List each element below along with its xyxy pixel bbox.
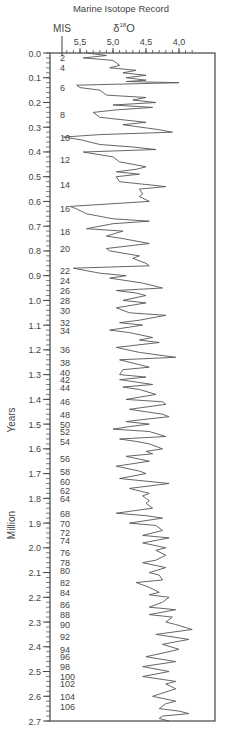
svg-text:Million: Million — [6, 511, 17, 539]
svg-text:1.2: 1.2 — [28, 345, 41, 355]
y-axis-label: Years Million — [6, 407, 17, 539]
svg-text:1.3: 1.3 — [28, 370, 41, 380]
svg-text:98: 98 — [60, 662, 70, 672]
svg-text:52: 52 — [60, 427, 70, 437]
svg-text:92: 92 — [60, 632, 70, 642]
svg-text:0.7: 0.7 — [28, 222, 41, 232]
svg-text:58: 58 — [60, 467, 70, 477]
svg-text:1.0: 1.0 — [28, 296, 41, 306]
svg-text:90: 90 — [60, 620, 70, 630]
svg-text:96: 96 — [60, 652, 70, 662]
svg-text:64: 64 — [60, 494, 70, 504]
svg-text:2.1: 2.1 — [28, 568, 41, 578]
svg-text:30: 30 — [60, 306, 70, 316]
svg-text:2.3: 2.3 — [28, 618, 41, 628]
svg-text:0.8: 0.8 — [28, 246, 41, 256]
svg-text:4,5: 4,5 — [140, 37, 153, 47]
svg-text:4: 4 — [60, 63, 65, 73]
svg-text:5,0: 5,0 — [107, 37, 120, 47]
svg-text:2.5: 2.5 — [28, 667, 41, 677]
svg-text:46: 46 — [60, 397, 70, 407]
mis-label: MIS — [53, 23, 71, 34]
svg-text:0.5: 0.5 — [28, 172, 41, 182]
svg-text:56: 56 — [60, 454, 70, 464]
svg-text:0.0: 0.0 — [28, 49, 41, 59]
svg-text:0.9: 0.9 — [28, 271, 41, 281]
svg-text:14: 14 — [60, 180, 70, 190]
svg-text:2.0: 2.0 — [28, 543, 41, 553]
svg-text:8: 8 — [60, 110, 65, 120]
chart-title: Marine Isotope Record — [73, 3, 169, 14]
svg-text:38: 38 — [60, 358, 70, 368]
svg-text:1.9: 1.9 — [28, 519, 41, 529]
svg-text:44: 44 — [60, 383, 70, 393]
svg-text:76: 76 — [60, 548, 70, 558]
svg-text:48: 48 — [60, 410, 70, 420]
svg-text:4,0: 4,0 — [173, 37, 186, 47]
svg-text:5,5: 5,5 — [74, 37, 87, 47]
svg-text:20: 20 — [60, 244, 70, 254]
svg-text:80: 80 — [60, 566, 70, 576]
svg-text:88: 88 — [60, 610, 70, 620]
svg-text:54: 54 — [60, 437, 70, 447]
svg-text:16: 16 — [60, 204, 70, 214]
svg-text:2.2: 2.2 — [28, 593, 41, 603]
svg-text:70: 70 — [60, 519, 70, 529]
svg-text:60: 60 — [60, 477, 70, 487]
x-axis-label: δ18O — [113, 22, 135, 34]
y-axis-ticks: 0.00.10.20.30.40.50.60.70.80.91.01.11.21… — [28, 49, 50, 727]
svg-text:22: 22 — [60, 266, 70, 276]
svg-text:84: 84 — [60, 588, 70, 598]
svg-text:82: 82 — [60, 578, 70, 588]
svg-text:0.6: 0.6 — [28, 197, 41, 207]
svg-text:1.7: 1.7 — [28, 469, 41, 479]
plot-frame — [50, 53, 215, 721]
isotope-curve — [64, 53, 193, 721]
svg-text:28: 28 — [60, 296, 70, 306]
svg-text:106: 106 — [60, 702, 75, 712]
svg-text:26: 26 — [60, 286, 70, 296]
svg-text:104: 104 — [60, 692, 75, 702]
svg-text:1.1: 1.1 — [28, 321, 41, 331]
svg-text:68: 68 — [60, 509, 70, 519]
svg-text:12: 12 — [60, 155, 70, 165]
svg-text:δ18O: δ18O — [113, 22, 135, 34]
svg-text:2: 2 — [60, 53, 65, 63]
svg-text:6: 6 — [60, 83, 65, 93]
svg-text:2.4: 2.4 — [28, 642, 41, 652]
svg-text:1.8: 1.8 — [28, 494, 41, 504]
svg-text:0.3: 0.3 — [28, 123, 41, 133]
svg-text:2.6: 2.6 — [28, 692, 41, 702]
svg-text:36: 36 — [60, 345, 70, 355]
x-axis-ticks: 5,55,04,54,0 — [67, 37, 192, 53]
svg-text:18: 18 — [60, 227, 70, 237]
svg-text:0.2: 0.2 — [28, 98, 41, 108]
svg-text:86: 86 — [60, 600, 70, 610]
isotope-chart: Marine Isotope Record MIS δ18O Years Mil… — [0, 0, 230, 737]
svg-text:2.7: 2.7 — [28, 717, 41, 727]
svg-text:Years: Years — [6, 407, 17, 432]
svg-text:24: 24 — [60, 276, 70, 286]
svg-text:0.1: 0.1 — [28, 73, 41, 83]
svg-text:74: 74 — [60, 536, 70, 546]
svg-text:1.5: 1.5 — [28, 420, 41, 430]
svg-text:0.4: 0.4 — [28, 147, 41, 157]
svg-text:1.4: 1.4 — [28, 395, 41, 405]
svg-text:34: 34 — [60, 326, 70, 336]
mis-stage-labels: 2468101214161820222426283032343638404244… — [60, 53, 75, 711]
svg-text:1.6: 1.6 — [28, 444, 41, 454]
svg-text:102: 102 — [60, 679, 75, 689]
